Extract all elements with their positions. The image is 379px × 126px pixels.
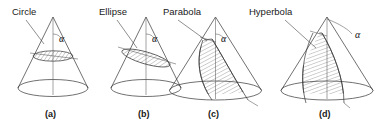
caption-c: (c)	[208, 109, 219, 119]
angle-alpha-label-d: α	[355, 29, 361, 40]
label-parabola: Parabola	[163, 6, 202, 17]
conic-sections-figure: α Circle (a) α Ellipse (b) α	[0, 0, 379, 126]
angle-alpha-label-b: α	[152, 33, 158, 44]
label-circle: Circle	[12, 6, 36, 17]
angle-alpha-label-a: α	[59, 33, 65, 44]
label-hyperbola: Hyperbola	[249, 6, 293, 17]
caption-a: (a)	[45, 109, 56, 119]
caption-d: (d)	[319, 109, 331, 119]
caption-b: (b)	[138, 109, 150, 119]
angle-alpha-label-c: α	[221, 33, 227, 44]
label-ellipse: Ellipse	[99, 6, 127, 17]
